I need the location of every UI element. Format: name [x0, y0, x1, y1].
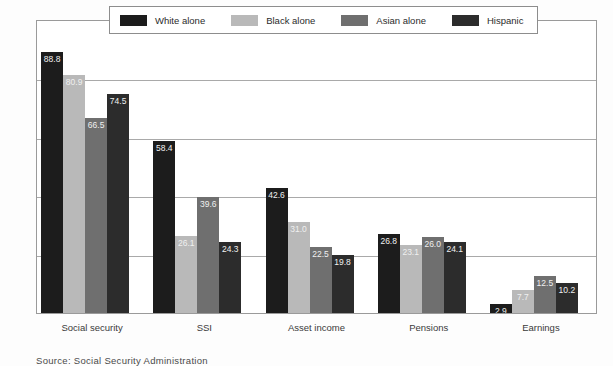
x-axis-label: SSI — [148, 322, 260, 333]
chart-legend: White aloneBlack aloneAsian aloneHispani… — [109, 6, 538, 34]
bar-value-label: 24.1 — [444, 244, 466, 254]
bar: 24.3 — [219, 242, 241, 313]
bar-value-label: 22.5 — [310, 249, 332, 259]
bar: 42.6 — [266, 188, 288, 313]
bar-value-label: 39.6 — [197, 199, 219, 209]
bar-value-label: 26.1 — [175, 238, 197, 248]
bar-value-label: 26.0 — [422, 239, 444, 249]
legend-label: White alone — [155, 15, 205, 26]
x-axis-label: Earnings — [485, 322, 597, 333]
bar-group: 26.823.126.024.1 — [378, 21, 466, 313]
bar-value-label: 66.5 — [85, 120, 107, 130]
x-axis-label: Social security — [36, 322, 148, 333]
bar: 26.8 — [378, 234, 400, 313]
bar: 7.7 — [512, 290, 534, 313]
bar: 80.9 — [63, 75, 85, 313]
plot-area: 88.880.966.574.558.426.139.624.342.631.0… — [36, 20, 597, 314]
legend-entry: Hispanic — [452, 15, 523, 26]
x-axis-label: Pensions — [373, 322, 485, 333]
bar-chart: Percent 88.880.966.574.558.426.139.624.3… — [0, 0, 613, 366]
bar-value-label: 2.9 — [490, 306, 512, 314]
bar: 26.1 — [175, 236, 197, 313]
bar-value-label: 26.8 — [378, 236, 400, 246]
bar: 10.2 — [556, 283, 578, 313]
legend-label: Asian alone — [376, 15, 426, 26]
bar-value-label: 12.5 — [534, 278, 556, 288]
bar: 31.0 — [288, 222, 310, 313]
bar: 26.0 — [422, 237, 444, 313]
legend-label: Black alone — [266, 15, 315, 26]
bar-value-label: 24.3 — [219, 244, 241, 254]
bar: 24.1 — [444, 242, 466, 313]
bar: 39.6 — [197, 197, 219, 313]
bar: 2.9 — [490, 304, 512, 313]
bar-value-label: 74.5 — [107, 96, 129, 106]
bar-group: 42.631.022.519.8 — [266, 21, 354, 313]
bar: 23.1 — [400, 245, 422, 313]
legend-swatch-icon — [341, 15, 368, 26]
bar: 88.8 — [41, 52, 63, 313]
bar: 12.5 — [534, 276, 556, 313]
bar-group: 2.97.712.510.2 — [490, 21, 578, 313]
legend-entry: White alone — [120, 15, 205, 26]
bar-value-label: 88.8 — [41, 54, 63, 64]
bar-value-label: 19.8 — [332, 257, 354, 267]
bar-value-label: 58.4 — [153, 143, 175, 153]
bar: 19.8 — [332, 255, 354, 313]
x-axis-label: Asset income — [260, 322, 372, 333]
bar-value-label: 7.7 — [512, 292, 534, 302]
bar-value-label: 80.9 — [63, 77, 85, 87]
source-footnote: Source: Social Security Administration — [36, 355, 208, 366]
legend-swatch-icon — [231, 15, 258, 26]
legend-label: Hispanic — [487, 15, 523, 26]
bar: 58.4 — [153, 141, 175, 313]
bar-value-label: 31.0 — [288, 224, 310, 234]
bar: 66.5 — [85, 118, 107, 314]
bar-value-label: 23.1 — [400, 247, 422, 257]
legend-entry: Black alone — [231, 15, 315, 26]
bar-value-label: 42.6 — [266, 190, 288, 200]
bar-value-label: 10.2 — [556, 285, 578, 295]
bar: 74.5 — [107, 94, 129, 313]
bar-group: 58.426.139.624.3 — [153, 21, 241, 313]
legend-swatch-icon — [452, 15, 479, 26]
bar: 22.5 — [310, 247, 332, 313]
legend-swatch-icon — [120, 15, 147, 26]
legend-entry: Asian alone — [341, 15, 426, 26]
bar-group: 88.880.966.574.5 — [41, 21, 129, 313]
